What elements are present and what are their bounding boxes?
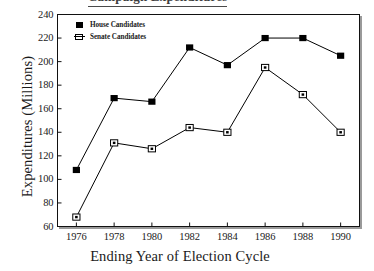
legend-item-senate: Senate Candidates — [74, 32, 146, 42]
x-tick-label: 1986 — [245, 231, 285, 242]
x-tick-label: 1988 — [283, 231, 323, 242]
y-tick-label: 60 — [20, 221, 54, 232]
legend-item-house: House Candidates — [74, 20, 146, 30]
y-tick-label: 240 — [20, 9, 54, 20]
x-tick-label: 1982 — [170, 231, 210, 242]
legend-label-house: House Candidates — [90, 21, 145, 29]
x-tick-label: 1980 — [132, 231, 172, 242]
y-tick-label: 140 — [20, 126, 54, 137]
legend-label-senate: Senate Candidates — [90, 33, 146, 41]
y-tick-label: 160 — [20, 103, 54, 114]
y-tick-label: 180 — [20, 79, 54, 90]
open-square-icon — [74, 32, 86, 42]
x-tick-label: 1984 — [207, 231, 247, 242]
y-tick-label: 200 — [20, 56, 54, 67]
x-tick-label: 1976 — [56, 231, 96, 242]
x-tick-label: 1978 — [94, 231, 134, 242]
y-tick-label: 100 — [20, 173, 54, 184]
chart-legend: House Candidates Senate Candidates — [74, 20, 146, 44]
y-tick-label: 220 — [20, 32, 54, 43]
filled-square-icon — [74, 20, 86, 30]
y-tick-label: 80 — [20, 197, 54, 208]
y-tick-label: 120 — [20, 150, 54, 161]
x-tick-label: 1990 — [321, 231, 361, 242]
